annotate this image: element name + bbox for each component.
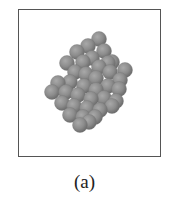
figure-caption: (a): [0, 171, 169, 193]
atom-cluster: [0, 0, 169, 199]
atom-sphere: [73, 118, 88, 133]
sphere-group: [45, 32, 133, 133]
